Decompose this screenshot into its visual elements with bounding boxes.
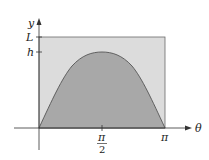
label-pi-over-2-denominator: 2 (99, 144, 105, 155)
label-L: L (25, 31, 33, 44)
x-axis-arrow-icon (185, 126, 192, 131)
y-axis-arrow-icon (37, 18, 42, 25)
label-h: h (27, 46, 34, 59)
label-pi-over-2-numerator: π (97, 131, 106, 144)
label-pi: π (160, 131, 169, 144)
diagram-canvas: y L h θ π 2 π (0, 0, 209, 160)
x-axis-label: θ (195, 122, 202, 135)
y-axis-label: y (27, 17, 35, 30)
